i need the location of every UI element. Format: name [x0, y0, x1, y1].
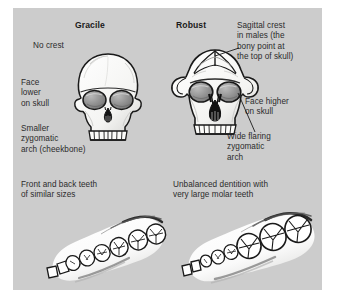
gracile-crest-label: No crest [33, 41, 64, 51]
robust-dentition-label: Unbalanced dentition with very large mol… [173, 180, 268, 201]
column-heading-gracile: Gracile [75, 20, 105, 30]
zygomatic-leader-line [235, 90, 261, 134]
robust-upper-jaw-dentition-illustration [173, 204, 328, 290]
hominin-skull-comparison-figure: Gracile Robust No crest Face lower on sk… [0, 0, 339, 300]
figure-panel: Gracile Robust No crest Face lower on sk… [13, 8, 322, 290]
sagittal-crest-leader-line [209, 46, 249, 62]
column-heading-robust: Robust [176, 20, 206, 30]
gracile-skull-front-illustration [65, 50, 151, 150]
gracile-dentition-label: Front and back teeth of similar sizes [21, 180, 97, 201]
gracile-upper-jaw-dentition-illustration [35, 204, 175, 290]
gracile-face-position-label: Face lower on skull [21, 78, 49, 109]
